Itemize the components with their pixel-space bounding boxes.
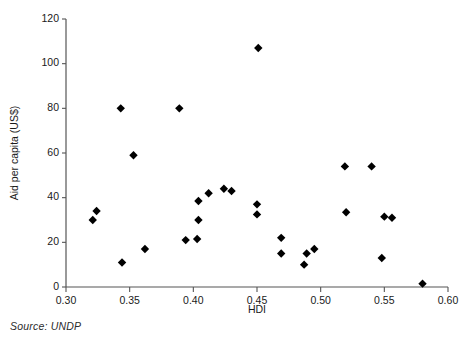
data-point <box>141 245 149 253</box>
y-tick-label: 100 <box>41 56 59 68</box>
data-point <box>253 210 261 218</box>
data-point <box>253 200 261 208</box>
y-tick-label: 0 <box>53 280 59 292</box>
source-note: Source: UNDP <box>10 320 81 332</box>
data-point <box>118 258 126 266</box>
y-axis: 020406080100120 <box>41 12 66 292</box>
data-point <box>378 254 386 262</box>
data-point <box>117 104 125 112</box>
data-point <box>310 245 318 253</box>
x-tick-label: 0.60 <box>438 294 459 306</box>
y-tick-label: 60 <box>47 146 59 158</box>
data-point <box>175 104 183 112</box>
data-point <box>92 207 100 215</box>
data-point <box>380 212 388 220</box>
data-point <box>194 197 202 205</box>
data-point <box>227 187 235 195</box>
data-point <box>342 208 350 216</box>
x-tick-label: 0.50 <box>310 294 331 306</box>
data-point <box>277 249 285 257</box>
data-point <box>388 214 396 222</box>
y-tick-label: 40 <box>47 190 59 202</box>
y-tick-label: 120 <box>41 12 59 24</box>
x-tick-label: 0.35 <box>119 294 140 306</box>
x-axis-title: HDI <box>248 303 266 315</box>
data-point <box>204 189 212 197</box>
x-tick-label: 0.30 <box>56 294 77 306</box>
scatter-chart-figure: 020406080100120 0.300.350.400.450.500.55… <box>0 0 470 341</box>
data-point <box>194 216 202 224</box>
y-axis-title: Aid per capita (US$) <box>8 106 20 201</box>
data-point <box>300 260 308 268</box>
data-point <box>193 235 201 243</box>
x-tick-label: 0.40 <box>183 294 204 306</box>
data-points-layer <box>89 44 427 288</box>
data-point <box>367 162 375 170</box>
data-point <box>181 236 189 244</box>
data-point <box>341 162 349 170</box>
data-point <box>302 249 310 257</box>
data-point <box>129 151 137 159</box>
y-tick-label: 20 <box>47 235 59 247</box>
data-point <box>220 185 228 193</box>
y-tick-label: 80 <box>47 101 59 113</box>
data-point <box>254 44 262 52</box>
data-point <box>277 234 285 242</box>
data-point <box>89 216 97 224</box>
x-tick-label: 0.55 <box>374 294 395 306</box>
chart-canvas: 020406080100120 0.300.350.400.450.500.55… <box>0 0 470 341</box>
